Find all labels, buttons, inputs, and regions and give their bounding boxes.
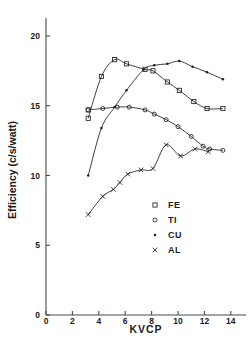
datapoint-cu-3	[125, 89, 128, 92]
y-axis-label: Efficiency (c/s/watt)	[6, 121, 18, 219]
curve-cu	[88, 61, 223, 175]
legend-label-fe: FE	[168, 200, 181, 210]
series-curves	[88, 59, 223, 214]
legend-marker-cu	[154, 234, 157, 237]
y-tick-label-15: 15	[31, 101, 41, 111]
x-tick-label-6: 6	[123, 316, 128, 326]
datapoint-cu-1	[100, 127, 103, 130]
scan-artifact-strip	[0, 329, 252, 338]
legend-label-cu: CU	[168, 230, 182, 240]
legend-label-ti: TI	[168, 215, 177, 225]
chart-legend: FETICUAL	[153, 200, 183, 255]
datapoint-cu-8	[191, 65, 194, 68]
x-tick-label-14: 14	[226, 316, 236, 326]
x-tick-label-10: 10	[173, 316, 183, 326]
legend-marker-ti	[153, 218, 157, 222]
datapoint-cu-6	[166, 63, 169, 66]
datapoint-cu-7	[178, 60, 181, 63]
y-tick-label-10: 10	[31, 171, 41, 181]
x-tick-label-12: 12	[200, 316, 210, 326]
datapoint-cu-2	[113, 106, 116, 109]
datapoint-al-0	[86, 212, 91, 217]
x-tick-label-2: 2	[70, 316, 75, 326]
legend-marker-fe	[153, 203, 157, 207]
y-axis-ticks: 05101520	[31, 31, 50, 320]
datapoint-cu-4	[142, 68, 145, 71]
y-tick-label-0: 0	[35, 310, 40, 320]
datapoint-cu-0	[87, 174, 90, 177]
datapoint-al-1	[100, 194, 105, 199]
figure-container: 05101520 02468101214 Efficiency (c/s/wat…	[0, 0, 252, 338]
datapoint-cu-5	[153, 64, 156, 67]
x-tick-label-0: 0	[44, 316, 49, 326]
axes	[46, 18, 246, 315]
curve-fe	[88, 59, 223, 118]
curve-al	[88, 145, 208, 215]
legend-label-al: AL	[168, 245, 181, 255]
datapoint-cu-10	[222, 78, 225, 81]
y-tick-label-20: 20	[31, 31, 41, 41]
y-tick-label-5: 5	[35, 240, 40, 250]
datapoint-al-3	[118, 180, 123, 185]
efficiency-vs-kvcp-chart: 05101520 02468101214 Efficiency (c/s/wat…	[0, 0, 252, 338]
legend-marker-al	[153, 248, 158, 253]
datapoint-al-2	[111, 187, 116, 192]
datapoint-al-6	[151, 166, 156, 171]
datapoint-al-4	[126, 172, 131, 177]
x-tick-label-4: 4	[96, 316, 101, 326]
datapoint-cu-9	[206, 71, 209, 74]
